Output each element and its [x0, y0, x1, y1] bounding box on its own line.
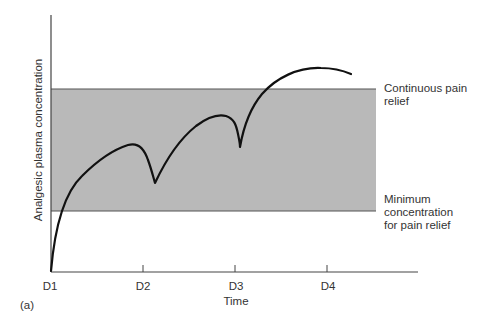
lower-band-label-line-3: for pain relief [384, 219, 451, 231]
lower-band-label: Minimum concentration for pain relief [384, 193, 456, 231]
lower-band-label-line-2: concentration [384, 206, 453, 218]
therapeutic-band [51, 89, 376, 211]
x-tick-label-d2: D2 [136, 280, 151, 292]
panel-label: (a) [20, 299, 34, 311]
y-axis-title: Analgesic plasma concentration [32, 59, 44, 221]
lower-band-label-line-1: Minimum [384, 193, 431, 205]
upper-band-label: Continuous pain relief [384, 82, 470, 107]
upper-band-label-line-2: relief [384, 95, 410, 107]
concentration-time-diagram: D1 D2 D3 D4 Time Analgesic plasma concen… [0, 0, 478, 330]
x-tick-label-d4: D4 [321, 280, 336, 292]
x-tick-label-d3: D3 [229, 280, 244, 292]
x-tick-label-d1: D1 [43, 280, 58, 292]
upper-band-label-line-1: Continuous pain [384, 82, 467, 94]
x-axis-title: Time [223, 295, 248, 307]
